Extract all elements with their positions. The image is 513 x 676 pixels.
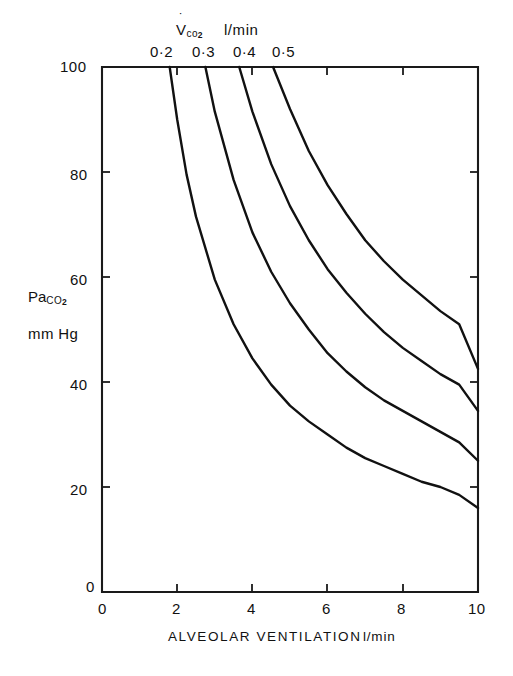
figure-container: ˙ Vco2 l/min 0·2 0·3 0·4 0·5 100 80 60 4…: [0, 0, 513, 676]
y-axis-ticks-right: [470, 172, 478, 487]
axis-frame: [102, 67, 478, 592]
curve-group: [170, 67, 478, 508]
curve-vco2-0-3: [205, 67, 478, 461]
x-axis-ticks: [177, 584, 403, 592]
plot-area: [0, 0, 513, 676]
y-axis-ticks: [102, 172, 110, 487]
top-axis-ticks: [177, 67, 403, 75]
curve-vco2-0-2: [170, 67, 478, 508]
curve-vco2-0-4: [239, 67, 478, 411]
